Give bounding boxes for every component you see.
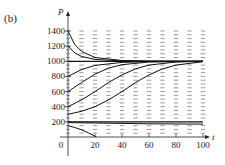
- axes: 020406080100 200400600800100012001400 t …: [47, 7, 215, 156]
- t-axis-ticks: 020406080100: [59, 134, 211, 150]
- direction-field: [79, 31, 205, 133]
- p-tick-label: 200: [52, 117, 66, 127]
- p-tick-label: 400: [52, 102, 66, 112]
- t-tick-label: 40: [118, 140, 128, 150]
- p-tick-label: 1200: [47, 41, 66, 51]
- t-tick-label: 0: [59, 140, 64, 150]
- solution-curve: [68, 126, 96, 137]
- p-tick-label: 1000: [47, 56, 66, 66]
- p-tick-label: 600: [52, 87, 66, 97]
- p-axis-ticks: 200400600800100012001400: [47, 26, 71, 133]
- p-axis-label: P: [57, 7, 64, 17]
- t-tick-label: 100: [196, 140, 210, 150]
- t-tick-label: 80: [172, 140, 182, 150]
- p-tick-label: 1400: [47, 26, 66, 36]
- solution-curve: [68, 123, 203, 125]
- direction-field-chart: (b) 020406080100 20040060080010001200140…: [0, 0, 225, 165]
- t-tick-label: 20: [91, 140, 101, 150]
- p-axis-arrow-icon: [66, 11, 70, 16]
- panel-label: (b): [4, 12, 17, 25]
- t-axis-arrow-icon: [205, 135, 210, 139]
- p-tick-label: 800: [52, 71, 66, 81]
- t-axis-label: t: [212, 132, 215, 142]
- t-tick-label: 60: [145, 140, 155, 150]
